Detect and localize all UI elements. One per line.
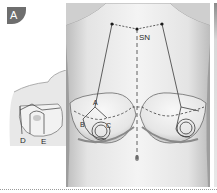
adjacent-panel-edge — [214, 3, 217, 187]
label-a: A — [93, 99, 98, 106]
label-sn: SN — [139, 33, 150, 42]
label-d: D — [20, 136, 26, 145]
label-e: E — [41, 137, 46, 146]
dotted-divider — [0, 189, 217, 190]
label-c: C — [106, 122, 111, 129]
frontal-torso-illustration: SN A B C — [66, 3, 210, 187]
panel-label: A — [10, 9, 17, 21]
label-b: B — [80, 121, 85, 128]
lateral-view-inset: D E — [8, 70, 66, 146]
panel-label-badge: A — [7, 7, 26, 24]
